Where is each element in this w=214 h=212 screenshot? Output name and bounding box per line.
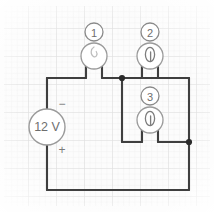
polarity-positive-label: + xyxy=(58,143,65,157)
voltage-source[interactable]: 12 V xyxy=(29,109,65,145)
node-top-junction xyxy=(119,75,125,81)
component-3[interactable]: 3 xyxy=(137,87,163,133)
node-right-junction xyxy=(186,139,192,145)
component-1-number: 1 xyxy=(91,27,97,39)
circuit-diagram-figure: 12 V − + 1 2 3 xyxy=(0,0,214,212)
circuit-canvas: 12 V − + 1 2 3 xyxy=(0,0,214,212)
component-2[interactable]: 2 xyxy=(137,23,163,69)
component-2-number: 2 xyxy=(147,27,153,39)
polarity-negative-label: − xyxy=(58,97,65,111)
component-3-number: 3 xyxy=(147,91,153,103)
component-1[interactable]: 1 xyxy=(81,23,107,69)
voltage-source-label: 12 V xyxy=(34,120,60,134)
paper-edge-fade xyxy=(0,0,214,212)
